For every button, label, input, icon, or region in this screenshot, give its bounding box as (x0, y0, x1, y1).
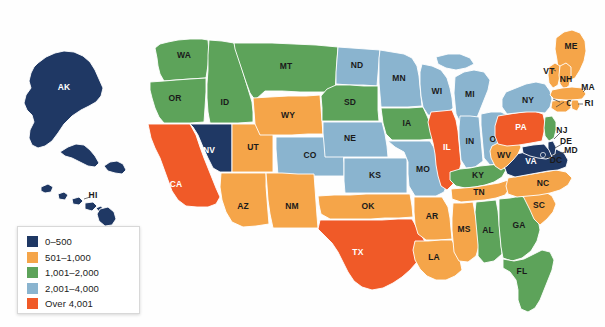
legend-label-4: Over 4,001 (45, 298, 93, 309)
state-label-MN: MN (392, 73, 406, 83)
state-label-MI: MI (465, 89, 475, 99)
state-label-AL: AL (482, 225, 494, 235)
state-label-NV: NV (203, 145, 215, 155)
state-label-AZ: AZ (237, 201, 249, 211)
legend-swatch-2-icon (27, 267, 38, 278)
state-RI[interactable] (571, 100, 580, 111)
legend-item-0[interactable]: 0–500 (27, 234, 131, 249)
legend-swatch-3-icon (27, 283, 38, 294)
state-label-MS: MS (457, 224, 470, 234)
state-label-MD: MD (564, 145, 578, 155)
state-AZ[interactable] (220, 173, 269, 227)
state-label-DC: DC (550, 155, 563, 165)
state-label-CA: CA (170, 179, 183, 189)
state-label-WY: WY (281, 110, 295, 120)
legend-swatch-4-icon (27, 298, 38, 309)
state-label-AK: AK (58, 82, 71, 92)
state-label-NH: NH (560, 74, 573, 84)
state-label-VT: VT (543, 66, 555, 76)
legend-label-3: 2,001–4,000 (45, 283, 99, 294)
state-label-NJ: NJ (556, 125, 567, 135)
legend-item-3[interactable]: 2,001–4,000 (27, 281, 131, 296)
state-label-RI: RI (585, 98, 594, 108)
state-label-WI: WI (432, 86, 443, 96)
state-label-MO: MO (416, 164, 430, 174)
legend-swatch-1-icon (27, 252, 38, 263)
state-AK[interactable] (24, 51, 126, 174)
state-label-PA: PA (515, 122, 527, 132)
state-label-OR: OR (168, 93, 181, 103)
legend-item-1[interactable]: 501–1,000 (27, 250, 131, 265)
state-label-WA: WA (177, 50, 191, 60)
state-label-ID: ID (221, 97, 230, 107)
state-label-ME: ME (564, 41, 577, 51)
us-choropleth-map-figure: AK HI WA OR ID MT CA (0, 0, 605, 327)
legend-item-2[interactable]: 1,001–2,000 (27, 265, 131, 280)
state-label-NY: NY (522, 95, 534, 105)
legend-label-2: 1,001–2,000 (45, 267, 99, 278)
state-label-LA: LA (428, 252, 440, 262)
state-label-IA: IA (403, 118, 412, 128)
state-label-NC: NC (537, 178, 550, 188)
state-label-CO: CO (303, 150, 316, 160)
state-label-ND: ND (351, 60, 364, 70)
state-label-OK: OK (361, 201, 375, 211)
state-label-HI: HI (89, 190, 98, 200)
state-label-NM: NM (285, 201, 299, 211)
state-label-UT: UT (247, 142, 259, 152)
legend-item-4[interactable]: Over 4,001 (27, 296, 131, 311)
state-NJ[interactable] (544, 116, 556, 141)
state-label-AR: AR (426, 211, 439, 221)
state-label-TN: TN (473, 187, 485, 197)
legend-label-0: 0–500 (45, 236, 72, 247)
map-legend: 0–500 501–1,000 1,001–2,000 2,001–4,000 … (17, 226, 140, 314)
state-label-TX: TX (352, 247, 363, 257)
state-MT[interactable] (234, 43, 338, 100)
state-label-SC: SC (533, 200, 545, 210)
state-label-IL: IL (443, 142, 451, 152)
legend-label-1: 501–1,000 (45, 252, 91, 263)
state-label-VA: VA (525, 156, 537, 166)
state-label-IN: IN (466, 136, 475, 146)
state-label-KY: KY (472, 170, 484, 180)
state-label-FL: FL (517, 266, 528, 276)
state-label-KS: KS (369, 170, 381, 180)
state-label-NE: NE (344, 133, 356, 143)
state-label-WV: WV (497, 150, 511, 160)
state-label-MT: MT (280, 61, 293, 71)
legend-swatch-0-icon (27, 236, 38, 247)
state-HI[interactable] (41, 184, 116, 226)
state-DC[interactable] (540, 152, 545, 157)
state-label-GA: GA (512, 220, 525, 230)
state-TX[interactable] (318, 219, 428, 290)
state-label-SD: SD (344, 97, 356, 107)
state-label-MA: MA (581, 82, 595, 92)
